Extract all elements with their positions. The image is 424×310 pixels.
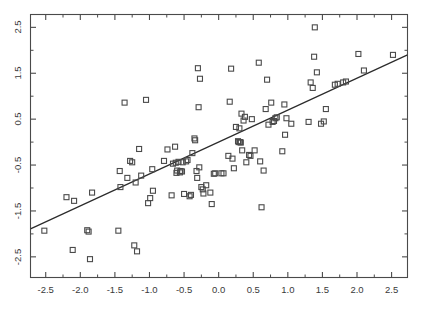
x-tick-label: -2.5 [38, 285, 54, 295]
x-tick-label: 1.5 [316, 285, 329, 295]
y-tick-label: 2.5 [13, 21, 23, 34]
x-tick-label: -1.0 [141, 285, 157, 295]
y-tick-label: 1.5 [13, 67, 23, 80]
x-tick-label: 0.0 [212, 285, 225, 295]
x-tick-label: -1.5 [107, 285, 123, 295]
x-tick-label: -2.0 [72, 285, 88, 295]
x-tick-label: 0.5 [247, 285, 260, 295]
y-tick-label: -2.5 [13, 249, 23, 265]
y-tick-label: 0.5 [13, 113, 23, 126]
x-tick-label: -0.5 [176, 285, 192, 295]
x-tick-label: 2.5 [385, 285, 398, 295]
scatter-plot-figure: -2.5-2.0-1.5-1.0-0.50.00.51.01.52.02.5 -… [0, 0, 424, 310]
x-tick-label: 2.0 [350, 285, 363, 295]
plot-frame [31, 15, 408, 278]
plot-canvas [0, 0, 424, 310]
x-tick-label: 1.0 [281, 285, 294, 295]
y-tick-label: -0.5 [13, 157, 23, 173]
y-tick-label: -1.5 [13, 203, 23, 219]
